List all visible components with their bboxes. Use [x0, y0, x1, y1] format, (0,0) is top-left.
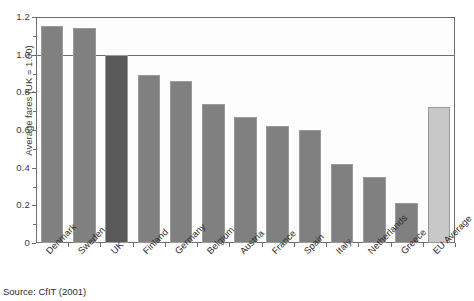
- x-tick-mark: [133, 243, 134, 247]
- bar-eu-average: [428, 107, 451, 243]
- x-tick-mark: [262, 243, 263, 247]
- bar-uk: [105, 55, 128, 243]
- bar-belgium: [202, 104, 225, 243]
- x-tick-mark: [165, 243, 166, 247]
- bar-france: [266, 126, 289, 243]
- x-tick-mark: [294, 243, 295, 247]
- bar-finland: [138, 75, 161, 243]
- x-tick-mark: [391, 243, 392, 247]
- bar-austria: [234, 117, 257, 243]
- source-note: Source: CfIT (2001): [3, 286, 86, 297]
- bar-germany: [170, 81, 193, 243]
- x-tick-mark: [326, 243, 327, 247]
- x-tick-mark: [229, 243, 230, 247]
- x-tick-mark: [68, 243, 69, 247]
- x-tick-mark: [423, 243, 424, 247]
- x-tick-mark: [358, 243, 359, 247]
- x-tick-mark: [100, 243, 101, 247]
- bar-italy: [331, 164, 354, 243]
- bar-sweden: [73, 28, 96, 243]
- bar-spain: [299, 130, 322, 243]
- bar-denmark: [41, 26, 64, 243]
- x-tick-mark: [455, 243, 456, 247]
- x-tick-mark: [197, 243, 198, 247]
